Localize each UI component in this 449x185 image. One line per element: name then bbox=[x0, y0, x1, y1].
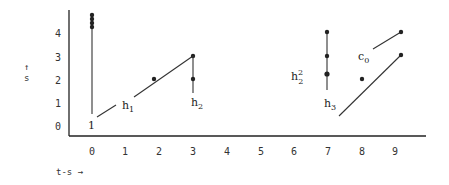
x-tick: 2 bbox=[156, 146, 162, 157]
y-axis-arrow: ↑ bbox=[24, 62, 29, 72]
x-tick: 4 bbox=[224, 146, 230, 157]
series-h2 bbox=[191, 56, 195, 93]
x-tick: 9 bbox=[392, 146, 398, 157]
series-vertical-at-0 bbox=[90, 13, 94, 114]
x-tick-labels: 0 1 2 3 4 5 6 7 8 9 bbox=[89, 146, 398, 157]
label-one: 1 bbox=[88, 119, 95, 132]
chart: 4 3 2 1 0 0 1 2 3 4 5 6 7 8 9 ↑ s t-s → … bbox=[0, 0, 449, 185]
x-tick: 6 bbox=[291, 146, 297, 157]
label-h2: h2 bbox=[191, 96, 203, 111]
y-tick: 3 bbox=[55, 52, 61, 63]
series-h3 bbox=[339, 53, 403, 116]
y-tick: 1 bbox=[55, 98, 61, 109]
x-tick: 5 bbox=[258, 146, 264, 157]
label-h1: h1 bbox=[122, 99, 134, 114]
label-h2-squared: h22 bbox=[291, 68, 303, 86]
y-tick: 2 bbox=[55, 75, 61, 86]
label-h3: h3 bbox=[324, 97, 336, 112]
x-tick: 0 bbox=[89, 146, 95, 157]
x-tick: 7 bbox=[325, 146, 331, 157]
y-tick: 0 bbox=[55, 121, 61, 132]
label-c0: c0 bbox=[358, 50, 369, 65]
y-tick-labels: 4 3 2 1 0 bbox=[55, 28, 61, 132]
x-tick: 1 bbox=[122, 146, 128, 157]
series-c0 bbox=[373, 30, 403, 49]
x-tick: 3 bbox=[190, 146, 196, 157]
series-h2-squared bbox=[324, 30, 329, 90]
x-axis-label: t-s → bbox=[56, 167, 84, 177]
y-tick: 4 bbox=[55, 28, 61, 39]
y-axis-label: s bbox=[24, 73, 29, 83]
x-tick: 8 bbox=[359, 146, 365, 157]
series-h1 bbox=[97, 54, 195, 117]
